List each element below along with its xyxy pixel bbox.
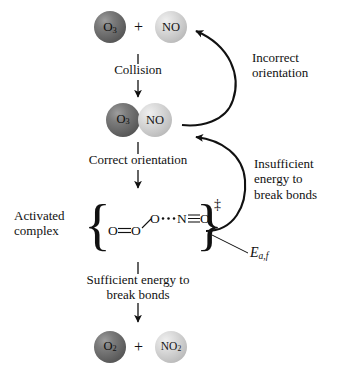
atom-n: N [177,211,187,226]
feedback-label-incorrect-orientation: Incorrect orientation [252,50,344,81]
sphere-reactant-no: NO [155,11,187,43]
sphere-label-no: NO [162,21,180,34]
atom-o2: O [131,223,141,238]
activation-energy-label: Ea,f [250,245,268,261]
atom-o1: O [108,223,118,238]
plus-reactants: + [134,18,143,36]
sphere-label-complex-o3: O3 [116,113,129,127]
dotted-bond-dot-1 [162,217,165,220]
feedback-label-insufficient-energy: Insufficient energy to break bonds [254,156,348,202]
sphere-product-o2: O2 [94,331,126,363]
step-label-sufficient-energy: Sufficient energy to break bonds [68,272,208,303]
sphere-label-no2: NO2 [161,341,181,353]
sphere-complex-o3: O3 [106,103,140,137]
curved-arrow-incorrect-orientation [182,31,236,125]
activation-energy-symbol: E [250,245,259,260]
sphere-complex-no: NO [138,103,172,137]
step-label-collision: Collision [88,62,188,77]
sphere-label-o2: O2 [103,340,116,354]
double-dagger-symbol: ‡ [214,197,221,213]
plus-products: + [134,338,143,356]
step-label-correct-orientation: Correct orientation [68,152,208,167]
activation-energy-subscript: a,f [259,251,269,261]
sphere-product-no2: NO2 [155,331,187,363]
sphere-reactant-o3: O3 [94,11,126,43]
dotted-bond-dot-2 [167,217,170,220]
dotted-bond-dot-3 [173,217,176,220]
activated-complex-label: Activated complex [14,208,90,239]
atom-o3-bridge: O [150,211,160,226]
sphere-label-o3: O3 [103,20,117,34]
sphere-label-complex-no: NO [146,114,164,127]
